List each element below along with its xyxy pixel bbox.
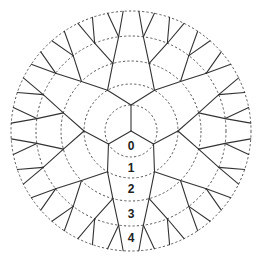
tree-edge [13, 108, 37, 119]
tree-edge [82, 172, 108, 181]
tree-edge [73, 56, 81, 82]
tree-edge [181, 73, 207, 81]
tree-edge [82, 82, 108, 91]
tree-edge [108, 13, 119, 37]
tree-edge [73, 181, 81, 207]
tree-edge [63, 113, 84, 131]
tree-edge [143, 37, 149, 64]
tree-edge [56, 181, 82, 189]
tree-edge [23, 167, 43, 184]
tree-edge [43, 95, 63, 113]
tree-edge [167, 219, 184, 239]
tree-edge [154, 144, 155, 172]
tree-edge [37, 113, 64, 119]
tree-edge [108, 63, 113, 90]
tree-edge [11, 119, 37, 124]
tree-edge [92, 219, 94, 245]
tree-edge [225, 119, 251, 124]
tree-edge [37, 143, 64, 149]
tree-edge [167, 23, 184, 43]
shell-labels: 0 1 2 3 4 [128, 139, 135, 245]
tree-edge [95, 43, 113, 63]
tree-edge [181, 181, 207, 189]
tree-edge [119, 225, 124, 251]
tree-edge [143, 225, 154, 249]
tree-edge [167, 17, 169, 43]
tree-edge [225, 139, 251, 144]
tree-edge [199, 143, 226, 149]
tree-edge [17, 167, 43, 169]
tree-edge [131, 131, 154, 144]
tree-edge [139, 225, 144, 251]
tree-edge [43, 149, 63, 167]
bethe-lattice-diagram: 0 1 2 3 4 [0, 0, 263, 260]
tree-edge [78, 23, 95, 43]
tree-edge [108, 225, 119, 249]
tree-edge [17, 92, 43, 94]
tree-edge [199, 149, 219, 167]
tree-edge [149, 199, 167, 219]
tree-edge [139, 11, 144, 37]
tree-edge [225, 108, 249, 119]
tree-edge [219, 167, 239, 184]
shell-label-4: 4 [128, 231, 135, 245]
tree-edge [181, 56, 189, 82]
tree-edge [131, 90, 155, 105]
tree-edge [92, 17, 94, 43]
tree-edge [199, 113, 226, 119]
tree-edge [23, 78, 43, 95]
tree-edge [149, 172, 154, 199]
tree-edge [119, 11, 124, 37]
tree-edge [108, 144, 109, 172]
shell-label-3: 3 [128, 207, 135, 221]
tree-edge [219, 92, 245, 94]
tree-edge [13, 143, 37, 154]
tree-edge [108, 172, 113, 199]
tree-edge [219, 78, 239, 95]
tree-edge [219, 167, 245, 169]
tree-edge [63, 131, 84, 149]
tree-edge [181, 181, 189, 207]
tree-edge [78, 219, 95, 239]
tree-edge [143, 199, 149, 226]
tree-edge [167, 219, 169, 245]
tree-edge [178, 131, 199, 149]
tree-edge [149, 43, 167, 63]
tree-edge [108, 90, 132, 105]
tree-edge [155, 82, 181, 91]
tree-edge [113, 37, 119, 64]
tree-edge [56, 73, 82, 81]
tree-edge [143, 13, 154, 37]
tree-edge [178, 113, 199, 131]
shell-label-0: 0 [128, 139, 135, 153]
tree-edge [225, 143, 249, 154]
tree-edge [95, 199, 113, 219]
tree-edge [199, 95, 219, 113]
tree-edge [84, 131, 108, 144]
tree-edge [113, 199, 119, 226]
tree-edge [11, 139, 37, 144]
tree-edge [149, 63, 154, 90]
tree-edge [155, 172, 181, 181]
shell-label-1: 1 [128, 161, 135, 175]
shell-label-2: 2 [128, 182, 135, 196]
